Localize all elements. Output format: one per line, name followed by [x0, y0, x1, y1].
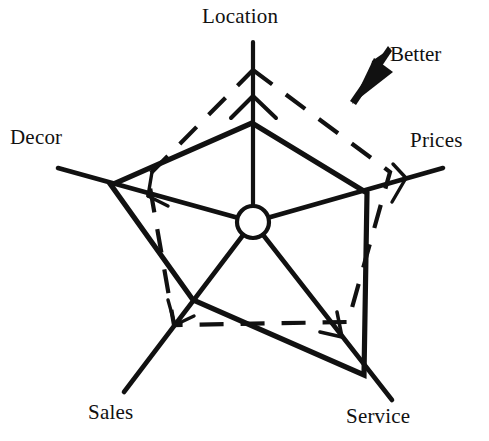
axis-label-prices: Prices	[410, 128, 463, 153]
axis-sales	[124, 222, 253, 392]
axis-label-service: Service	[346, 404, 410, 429]
axis-prices	[253, 164, 443, 222]
better-direction-arrow-icon	[350, 46, 393, 105]
axis-decor	[58, 168, 253, 222]
radar-chart: Location Decor Prices Sales Service Bett…	[0, 0, 489, 441]
axis-label-location: Location	[202, 4, 278, 29]
axis-service	[253, 222, 392, 400]
better-annotation-label: Better	[390, 42, 441, 67]
axis-label-decor: Decor	[10, 125, 62, 150]
series-current-solid	[111, 123, 367, 375]
radar-center-hub	[237, 206, 269, 238]
axis-label-sales: Sales	[88, 400, 133, 425]
